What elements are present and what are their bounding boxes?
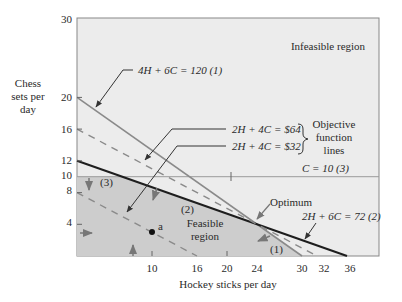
y-tick-8: 8 bbox=[67, 184, 73, 196]
x-tick-30: 30 bbox=[297, 262, 309, 274]
point-a-label: a bbox=[158, 220, 163, 232]
optimum-label: Optimum bbox=[270, 196, 313, 208]
constraint-1-marker: (1) bbox=[270, 243, 283, 256]
constraint-1-label: 4H + 6C = 120 (1) bbox=[138, 64, 223, 77]
y-axis-label-line3: day bbox=[20, 103, 36, 115]
y-tick-30: 30 bbox=[61, 13, 73, 25]
y-tick-10: 10 bbox=[61, 169, 73, 181]
objective-32-label: 2H + 4C = $32 bbox=[232, 140, 301, 152]
y-axis-label-line2: sets per bbox=[11, 90, 45, 102]
constraint-2-label: 2H + 6C = 72 (2) bbox=[302, 210, 381, 223]
feasible-region-label-line1: Feasible bbox=[187, 217, 224, 229]
y-axis-label-line1: Chess bbox=[15, 77, 41, 89]
point-a-marker bbox=[149, 229, 155, 235]
x-tick-10: 10 bbox=[147, 262, 159, 274]
x-tick-32: 32 bbox=[319, 262, 330, 274]
lp-graph: 30 20 16 12 10 8 4 10 16 20 24 30 32 36 … bbox=[0, 0, 402, 302]
x-tick-20: 20 bbox=[222, 262, 234, 274]
y-tick-16: 16 bbox=[61, 123, 73, 135]
x-axis-label: Hockey sticks per day bbox=[179, 278, 277, 290]
objective-group-label-line1: Objective bbox=[313, 118, 356, 130]
objective-group-label-line3: lines bbox=[324, 144, 345, 156]
infeasible-region-label: Infeasible region bbox=[291, 40, 366, 52]
x-tick-24: 24 bbox=[252, 262, 264, 274]
objective-group-label-line2: function bbox=[316, 131, 353, 143]
x-tick-16: 16 bbox=[192, 262, 204, 274]
objective-64-label: 2H + 4C = $64 bbox=[232, 123, 301, 135]
constraint-3-marker: (3) bbox=[100, 176, 113, 189]
y-tick-20: 20 bbox=[61, 91, 73, 103]
feasible-region-label-line2: region bbox=[191, 230, 220, 242]
x-tick-36: 36 bbox=[345, 262, 357, 274]
constraint-3-label: C = 10 (3) bbox=[302, 162, 349, 175]
constraint-2-marker: (2) bbox=[181, 203, 194, 216]
y-tick-12: 12 bbox=[61, 154, 72, 166]
y-tick-4: 4 bbox=[67, 216, 73, 228]
